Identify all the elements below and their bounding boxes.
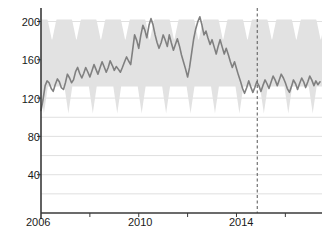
y-tick-label-40: 40 <box>6 169 40 181</box>
prediction-interval-band <box>41 20 322 114</box>
y-tick-label-120: 120 <box>6 93 40 105</box>
chart-plot-area <box>0 0 331 235</box>
x-tick-label-2010: 2010 <box>128 216 152 228</box>
y-tick-label-160: 160 <box>6 54 40 66</box>
y-tick-label-200: 200 <box>6 16 40 28</box>
x-tick-label-2014: 2014 <box>229 216 253 228</box>
x-tick-label-2006: 2006 <box>26 216 50 228</box>
y-tick-label-80: 80 <box>6 131 40 143</box>
forecast-line-chart: 200 160 120 80 40 2006 2010 2014 <box>0 0 331 235</box>
